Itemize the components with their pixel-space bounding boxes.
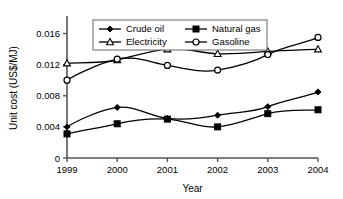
- marker-diamond: [114, 104, 120, 110]
- data-point: [164, 62, 170, 68]
- line-chart: 00.0040.0080.0120.0161999200020012002200…: [0, 0, 343, 199]
- series-line: [67, 92, 318, 127]
- data-point: [114, 121, 120, 127]
- x-tick-label: 2004: [307, 164, 328, 175]
- x-tick-label: 2000: [107, 164, 128, 175]
- legend-item-label: Electricity: [126, 36, 167, 47]
- data-point: [315, 107, 321, 113]
- y-tick-label: 0.016: [36, 28, 60, 39]
- marker-circle: [164, 62, 170, 68]
- marker-circle: [265, 52, 271, 58]
- x-tick-label: 2001: [157, 164, 178, 175]
- marker-diamond: [315, 89, 321, 95]
- x-tick-label: 2003: [257, 164, 278, 175]
- legend-item-label: Natural gas: [212, 23, 261, 34]
- legend-item-label: Gasoline: [212, 36, 250, 47]
- marker-square: [164, 116, 170, 122]
- data-point: [265, 104, 271, 110]
- y-tick-label: 0.012: [36, 59, 60, 70]
- data-point: [114, 104, 120, 110]
- marker-diamond: [64, 124, 70, 130]
- data-point: [265, 111, 271, 117]
- marker-square: [315, 107, 321, 113]
- data-point: [215, 112, 221, 118]
- marker-diamond: [215, 112, 221, 118]
- marker-square: [215, 124, 221, 130]
- chart-canvas: 00.0040.0080.0120.0161999200020012002200…: [0, 0, 343, 199]
- data-point: [315, 34, 321, 40]
- legend-marker: [193, 39, 199, 45]
- data-point: [64, 131, 70, 137]
- marker-square: [114, 121, 120, 127]
- marker-square: [265, 111, 271, 117]
- marker-diamond: [265, 104, 271, 110]
- data-point: [164, 116, 170, 122]
- legend-marker: [193, 26, 199, 32]
- data-point: [64, 124, 70, 130]
- data-point: [315, 89, 321, 95]
- marker-square: [64, 131, 70, 137]
- marker-circle: [193, 39, 199, 45]
- y-axis-title: Unit cost (US$/MJ): [8, 46, 19, 130]
- series-line: [67, 49, 318, 63]
- legend-item-label: Crude oil: [126, 23, 164, 34]
- data-point: [114, 56, 120, 62]
- marker-circle: [114, 56, 120, 62]
- data-point: [215, 67, 221, 73]
- y-tick-label: 0.004: [36, 121, 60, 132]
- y-tick-label: 0.008: [36, 90, 60, 101]
- marker-circle: [315, 34, 321, 40]
- x-tick-label: 2002: [207, 164, 228, 175]
- y-tick-label: 0: [55, 153, 60, 164]
- legend: Crude oilNatural gasElectricityGasoline: [93, 20, 267, 50]
- data-point: [215, 124, 221, 130]
- data-point: [265, 52, 271, 58]
- data-point: [64, 77, 70, 83]
- series-line: [67, 110, 318, 134]
- marker-circle: [215, 67, 221, 73]
- x-axis-title: Year: [182, 183, 203, 194]
- marker-square: [193, 26, 199, 32]
- marker-circle: [64, 77, 70, 83]
- x-tick-label: 1999: [56, 164, 77, 175]
